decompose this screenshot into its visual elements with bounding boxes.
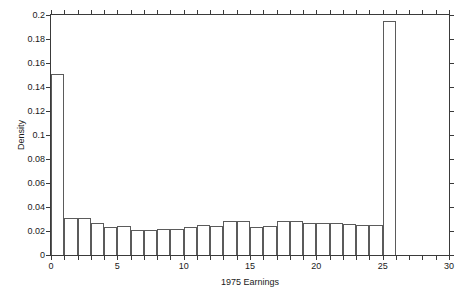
histogram-bar xyxy=(104,227,117,255)
histogram-bar xyxy=(277,221,290,255)
x-minor-tick-mark xyxy=(369,255,370,260)
x-minor-tick-mark-top xyxy=(290,10,291,15)
x-tick-mark-top xyxy=(449,10,450,15)
y-tick-label: 0.1 xyxy=(32,131,45,140)
x-minor-tick-mark-top xyxy=(223,10,224,15)
x-minor-tick-mark xyxy=(436,255,437,260)
x-minor-tick-mark-top xyxy=(144,10,145,15)
y-tick-mark xyxy=(46,87,51,88)
x-minor-tick-mark xyxy=(343,255,344,260)
y-tick-mark xyxy=(46,183,51,184)
x-tick-mark xyxy=(449,255,450,260)
x-minor-tick-mark-top xyxy=(157,10,158,15)
x-minor-tick-mark-top xyxy=(343,10,344,15)
histogram-bar xyxy=(316,223,329,255)
x-minor-tick-mark xyxy=(197,255,198,260)
y-tick-label: 0.08 xyxy=(27,155,45,164)
y-tick-label: 0.06 xyxy=(27,179,45,188)
x-minor-tick-mark xyxy=(223,255,224,260)
x-tick-mark xyxy=(250,255,251,260)
bar-series xyxy=(51,15,449,255)
x-tick-label: 10 xyxy=(179,262,189,271)
y-tick-mark xyxy=(46,159,51,160)
y-tick-mark xyxy=(46,39,51,40)
x-minor-tick-mark-top xyxy=(303,10,304,15)
histogram-bar xyxy=(303,223,316,255)
x-tick-label: 25 xyxy=(378,262,388,271)
x-minor-tick-mark xyxy=(356,255,357,260)
x-minor-tick-mark xyxy=(290,255,291,260)
histogram-bar xyxy=(290,221,303,255)
x-minor-tick-mark xyxy=(277,255,278,260)
x-minor-tick-mark-top xyxy=(78,10,79,15)
x-minor-tick-mark xyxy=(170,255,171,260)
y-tick-mark xyxy=(46,207,51,208)
y-tick-label: 0.04 xyxy=(27,203,45,212)
y-tick-mark xyxy=(46,111,51,112)
y-tick-mark-right xyxy=(449,87,454,88)
histogram-bar xyxy=(250,227,263,255)
x-minor-tick-mark-top xyxy=(396,10,397,15)
y-tick-label: 0.16 xyxy=(27,59,45,68)
x-minor-tick-mark-top xyxy=(330,10,331,15)
histogram-bar xyxy=(184,227,197,255)
x-tick-mark xyxy=(51,255,52,260)
x-minor-tick-mark xyxy=(144,255,145,260)
histogram-figure: Density 1975 Earnings 00.020.040.060.080… xyxy=(0,0,472,296)
y-tick-mark-right xyxy=(449,39,454,40)
y-tick-mark xyxy=(46,63,51,64)
histogram-bar xyxy=(117,226,130,255)
y-tick-mark-right xyxy=(449,231,454,232)
y-tick-mark-right xyxy=(449,207,454,208)
histogram-bar xyxy=(237,221,250,255)
x-minor-tick-mark xyxy=(422,255,423,260)
x-tick-mark xyxy=(117,255,118,260)
x-minor-tick-mark-top xyxy=(91,10,92,15)
x-tick-label: 15 xyxy=(245,262,255,271)
histogram-bar xyxy=(91,223,104,255)
y-tick-mark xyxy=(46,231,51,232)
x-tick-mark-top xyxy=(51,10,52,15)
histogram-bar xyxy=(197,225,210,255)
x-minor-tick-mark-top xyxy=(436,10,437,15)
y-axis-title: Density xyxy=(16,120,26,150)
y-tick-label: 0.18 xyxy=(27,35,45,44)
x-tick-mark xyxy=(184,255,185,260)
y-tick-label: 0.2 xyxy=(32,11,45,20)
x-minor-tick-mark-top xyxy=(237,10,238,15)
histogram-bar xyxy=(343,224,356,255)
x-minor-tick-mark-top xyxy=(131,10,132,15)
x-minor-tick-mark xyxy=(303,255,304,260)
x-minor-tick-mark-top xyxy=(422,10,423,15)
x-minor-tick-mark xyxy=(210,255,211,260)
x-minor-tick-mark xyxy=(131,255,132,260)
y-tick-mark-right xyxy=(449,111,454,112)
histogram-bar xyxy=(223,221,236,255)
y-tick-mark-right xyxy=(449,159,454,160)
x-tick-mark xyxy=(316,255,317,260)
histogram-bar xyxy=(210,226,223,255)
x-axis-title: 1975 Earnings xyxy=(221,277,279,287)
x-tick-label: 0 xyxy=(48,262,53,271)
histogram-bar xyxy=(78,218,91,255)
x-minor-tick-mark xyxy=(330,255,331,260)
x-minor-tick-mark xyxy=(78,255,79,260)
x-tick-label: 5 xyxy=(115,262,120,271)
histogram-bar xyxy=(383,21,396,255)
x-minor-tick-mark xyxy=(396,255,397,260)
y-tick-mark-right xyxy=(449,15,454,16)
x-minor-tick-mark xyxy=(263,255,264,260)
x-minor-tick-mark-top xyxy=(369,10,370,15)
x-tick-mark-top xyxy=(383,10,384,15)
histogram-bar xyxy=(263,226,276,255)
y-tick-mark xyxy=(46,15,51,16)
x-tick-label: 30 xyxy=(444,262,454,271)
plot-area: 00.020.040.060.080.10.120.140.160.180.2 … xyxy=(50,14,450,256)
histogram-bar xyxy=(144,230,157,255)
x-minor-tick-mark xyxy=(64,255,65,260)
x-minor-tick-mark-top xyxy=(263,10,264,15)
y-tick-mark-right xyxy=(449,135,454,136)
x-tick-mark xyxy=(383,255,384,260)
y-tick-label: 0.14 xyxy=(27,83,45,92)
x-minor-tick-mark xyxy=(409,255,410,260)
